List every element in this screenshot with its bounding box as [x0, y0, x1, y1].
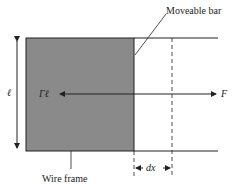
wire-frame-label: Wire frame	[42, 173, 87, 184]
displacement-label: dx	[146, 162, 155, 173]
applied-force-label: F	[221, 88, 227, 99]
diagram-graphics	[0, 0, 239, 193]
length-label: ℓ	[7, 87, 11, 98]
moveable-bar-label: Moveable bar	[166, 5, 221, 16]
moveable-bar-leader	[135, 14, 166, 55]
soap-film-diagram: Moveable bar Wire frame ℓ Γℓ F dx	[0, 0, 239, 193]
surface-force-label: Γℓ	[39, 88, 49, 99]
